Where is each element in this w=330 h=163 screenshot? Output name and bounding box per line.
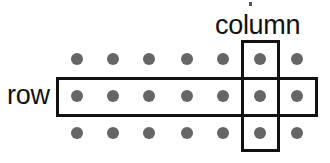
- grid-dot: [71, 53, 83, 65]
- grid-dot: [143, 53, 155, 65]
- grid-dot: [217, 127, 229, 139]
- grid-dot: [181, 127, 193, 139]
- row-label: row: [7, 82, 50, 109]
- grid-dot: [71, 127, 83, 139]
- grid-dot: [181, 53, 193, 65]
- grid-dot: [291, 53, 303, 65]
- grid-dot: [291, 127, 303, 139]
- grid-dot: [107, 127, 119, 139]
- scan-speck-artifact: [249, 2, 252, 6]
- column-label: column: [215, 12, 300, 39]
- grid-dot: [107, 53, 119, 65]
- grid-dot: [217, 53, 229, 65]
- column-highlight-edge-right: [277, 77, 280, 117]
- column-highlight-edge-left: [241, 77, 244, 117]
- grid-dot: [143, 127, 155, 139]
- diagram-canvas: column row: [0, 0, 330, 163]
